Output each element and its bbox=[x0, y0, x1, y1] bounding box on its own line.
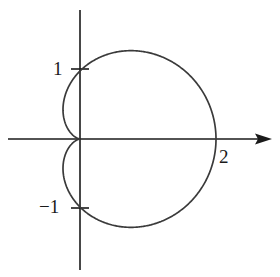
axis-tick-label-y-positive-one: 1 bbox=[53, 59, 63, 78]
axis-tick-label-x-two: 2 bbox=[219, 147, 229, 166]
axis-tick-label-y-negative-one: −1 bbox=[39, 197, 59, 216]
plot-canvas bbox=[0, 0, 280, 277]
cardioid-plot-figure: 1 −1 2 bbox=[0, 0, 280, 277]
